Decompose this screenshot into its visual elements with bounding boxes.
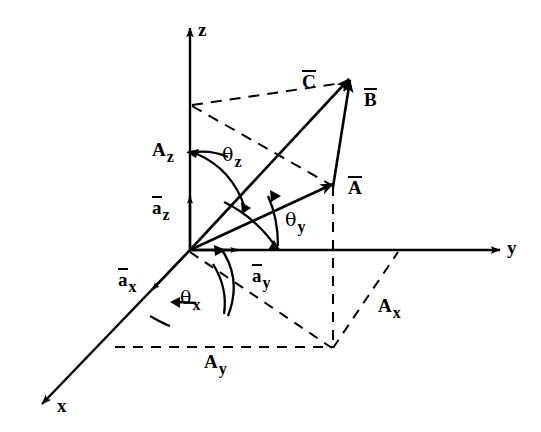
component-Az-label: Az: [152, 140, 173, 159]
angle-theta-z-label: θz: [222, 145, 241, 164]
component-Ax-label: Ax: [378, 296, 400, 315]
vector-B-label: B: [364, 90, 377, 109]
axis-z-label: z: [198, 20, 206, 39]
figure-canvas: z y x C B A Az Ax Ay az ax ay θz θy θx: [0, 0, 541, 432]
unit-vector-ax-label: ax: [118, 270, 136, 289]
vector-A-arrow: [190, 184, 333, 250]
angle-arc-theta-x: [150, 245, 234, 326]
dashed-Az-to-B: [192, 82, 349, 105]
axis-x-label: x: [57, 396, 67, 415]
angle-theta-x-label: θx: [180, 288, 199, 307]
vector-C-label: C: [302, 72, 316, 91]
component-Ay-label: Ay: [204, 352, 226, 371]
vector-A-label: A: [348, 178, 362, 197]
angle-theta-y-label: θy: [285, 210, 304, 229]
angle-arc-helper: [213, 264, 225, 314]
angle-arc-theta-y: [224, 190, 281, 251]
unit-vector-ax-arrow: [152, 250, 190, 290]
vector-B-arrow: [333, 80, 350, 187]
vector-diagram-svg: [0, 0, 541, 432]
axis-y-label: y: [507, 238, 517, 257]
unit-vector-az-label: az: [152, 198, 169, 217]
unit-vector-ay-label: ay: [252, 266, 270, 285]
